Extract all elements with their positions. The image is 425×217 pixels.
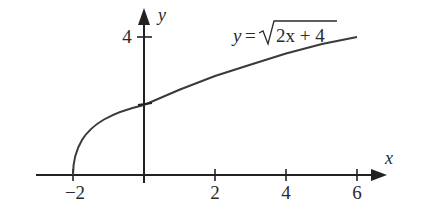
x-axis-arrow-icon <box>371 169 387 181</box>
x-axis-label: x <box>384 148 393 168</box>
svg-text:=: = <box>245 25 256 46</box>
y-axis-label: y <box>156 5 166 25</box>
svg-text:2x + 4: 2x + 4 <box>276 25 325 46</box>
x-tick-label-2: 2 <box>210 182 220 203</box>
function-curve <box>73 37 357 175</box>
function-graph: −2 2 4 6 4 x y y = 2x + 4 <box>0 0 425 217</box>
y-intercept-marker <box>138 103 152 105</box>
y-axis-arrow-icon <box>138 8 150 25</box>
x-tick-label-4: 4 <box>281 182 291 203</box>
svg-text:y: y <box>231 25 242 46</box>
x-tick-label-6: 6 <box>352 182 362 203</box>
y-tick-label-4: 4 <box>122 26 132 47</box>
function-equation-label: y = 2x + 4 <box>231 21 337 46</box>
x-tick-label-neg2: −2 <box>65 182 85 203</box>
